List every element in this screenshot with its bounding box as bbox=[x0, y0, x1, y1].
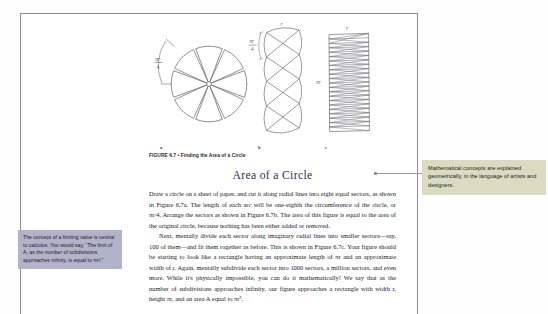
figure-panel-b-zigzag: r πr 4 bbox=[249, 19, 315, 144]
leader-line bbox=[377, 173, 422, 174]
body-text-column: Area of a Circle Draw a circle on a shee… bbox=[149, 169, 396, 305]
panel-label-c: c bbox=[325, 145, 327, 150]
figure-caption: FIGURE 6.7 • Finding the Area of a Circl… bbox=[149, 153, 246, 158]
annotation-callout-right: Mathematical concepts are explained geom… bbox=[422, 160, 546, 195]
annotation-left-text: The concept of a limiting value is centr… bbox=[23, 234, 117, 264]
figure-panel-a-circle: πr 4 bbox=[153, 26, 261, 144]
annotation-right-text: Mathematical concepts are explained geom… bbox=[428, 164, 541, 189]
arc-length-label-a: πr 4 bbox=[155, 56, 163, 70]
panel-label-b: b bbox=[258, 145, 261, 150]
paragraph-2: Next, mentally divide each sector along … bbox=[149, 231, 396, 305]
figure-6-7: πr 4 bbox=[21, 14, 419, 166]
svg-text:4: 4 bbox=[157, 64, 160, 70]
svg-text:πr: πr bbox=[249, 38, 255, 44]
annotation-callout-left: The concept of a limiting value is centr… bbox=[18, 230, 122, 269]
label-r-panel-c: r bbox=[346, 25, 349, 31]
svg-text:πr: πr bbox=[155, 56, 161, 62]
label-r-panel-b: r bbox=[281, 21, 284, 27]
arc-length-label-b: πr 4 bbox=[249, 38, 257, 52]
callout-leader-line bbox=[374, 172, 422, 175]
svg-text:4: 4 bbox=[251, 46, 254, 52]
panel-label-a: a bbox=[160, 145, 163, 150]
figure-panel-c-rectangle: r πr bbox=[313, 22, 385, 144]
section-heading: Area of a Circle bbox=[149, 169, 396, 182]
paragraph-1: Draw a circle on a sheet of paper, and c… bbox=[149, 189, 396, 231]
label-pi-r-panel-c: πr bbox=[316, 79, 322, 85]
